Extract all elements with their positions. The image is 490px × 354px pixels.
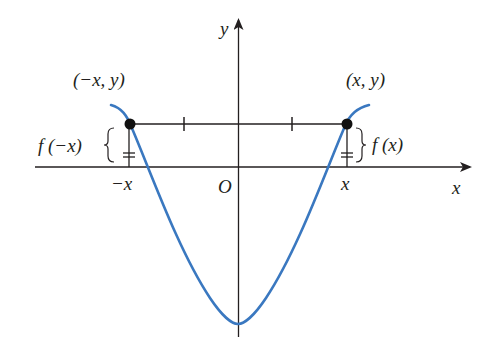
even-function-curve [111, 105, 369, 324]
x-axis-label: x [451, 177, 461, 198]
right-brace [356, 128, 366, 162]
origin-label: O [218, 176, 232, 197]
pos-x-tick-label: x [340, 173, 350, 194]
left-brace-label: f (−x) [38, 135, 82, 157]
even-function-diagram: y x O −x x (−x, y) (x, y) f (−x) f (x) [0, 0, 490, 354]
left-brace [104, 128, 114, 162]
right-point-marker [342, 119, 353, 130]
right-brace-label: f (x) [372, 134, 403, 156]
neg-x-tick-label: −x [111, 173, 133, 194]
left-point-label: (−x, y) [73, 69, 125, 91]
left-point-marker [125, 119, 136, 130]
y-axis-label: y [218, 18, 229, 39]
right-point-label: (x, y) [346, 69, 385, 91]
